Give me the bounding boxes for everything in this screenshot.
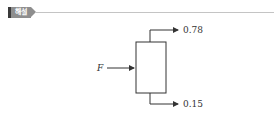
top-output-arrow-icon	[150, 30, 178, 42]
top-output-label: 0.78	[183, 25, 203, 35]
input-label: F	[96, 63, 104, 73]
process-box	[136, 42, 166, 93]
separation-diagram: F 0.78 0.15	[0, 0, 274, 117]
bottom-output-arrow-icon	[150, 93, 178, 104]
bottom-output-label: 0.15	[183, 99, 203, 109]
